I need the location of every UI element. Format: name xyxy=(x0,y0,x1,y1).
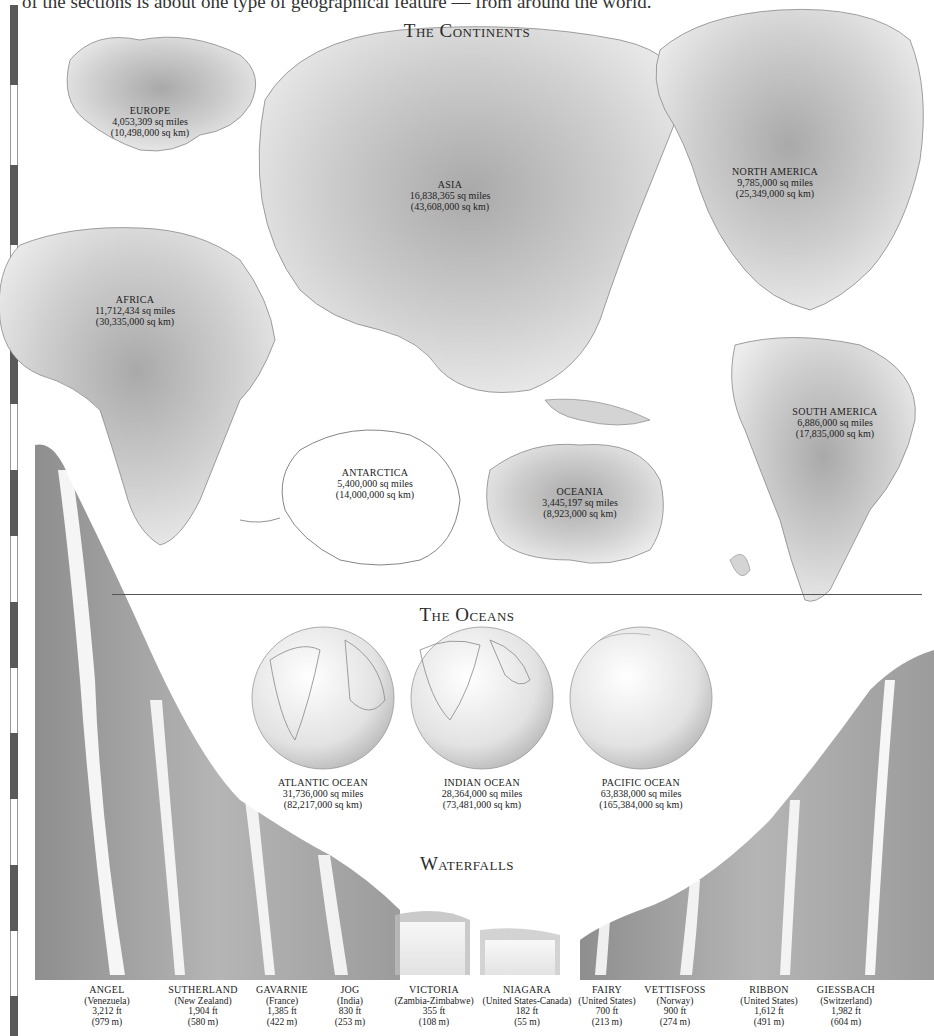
waterfall-height-ft: 830 ft xyxy=(335,1006,365,1017)
waterfall-height-ft: 700 ft xyxy=(578,1006,635,1017)
ocean-label-indian: INDIAN OCEAN 28,364,000 sq miles (73,481… xyxy=(402,777,562,810)
waterfall-height-m: (422 m) xyxy=(256,1017,308,1028)
waterfall-label-ribbon: RIBBON (United States) 1,612 ft (491 m) xyxy=(740,985,797,1027)
waterfall-height-m: (213 m) xyxy=(578,1017,635,1028)
continent-name: AFRICA xyxy=(80,294,190,305)
waterfall-country: (United States) xyxy=(578,996,635,1007)
waterfall-height-m: (979 m) xyxy=(84,1017,129,1028)
ocean-area-km: (82,217,000 sq km) xyxy=(243,799,403,810)
ocean-label-pacific: PACIFIC OCEAN 63,838,000 sq miles (165,3… xyxy=(561,777,721,810)
waterfall-height-m: (491 m) xyxy=(740,1017,797,1028)
waterfall-height-ft: 1,904 ft xyxy=(168,1006,238,1017)
world-illustration xyxy=(0,0,934,1036)
south-america-shape xyxy=(732,338,916,602)
waterfall-name: VICTORIA xyxy=(394,985,473,996)
ocean-label-atlantic: ATLANTIC OCEAN 31,736,000 sq miles (82,2… xyxy=(243,777,403,810)
waterfall-country: (United States-Canada) xyxy=(483,996,572,1007)
waterfall-name: NIAGARA xyxy=(483,985,572,996)
continent-area-km: (14,000,000 sq km) xyxy=(320,489,430,500)
waterfall-label-angel: ANGEL (Venezuela) 3,212 ft (979 m) xyxy=(84,985,129,1027)
atlantic-ocean-globe xyxy=(252,627,394,769)
waterfall-label-vettisfoss: VETTISFOSS (Norway) 900 ft (274 m) xyxy=(644,985,705,1027)
waterfall-label-victoria: VICTORIA (Zambia-Zimbabwe) 355 ft (108 m… xyxy=(394,985,473,1027)
waterfall-country: (New Zealand) xyxy=(168,996,238,1007)
waterfall-label-niagara: NIAGARA (United States-Canada) 182 ft (5… xyxy=(483,985,572,1027)
ocean-area-miles: 31,736,000 sq miles xyxy=(243,788,403,799)
waterfall-name: GAVARNIE xyxy=(256,985,308,996)
continent-name: OCEANIA xyxy=(530,486,630,497)
waterfall-label-sutherland: SUTHERLAND (New Zealand) 1,904 ft (580 m… xyxy=(168,985,238,1027)
waterfall-height-ft: 182 ft xyxy=(483,1006,572,1017)
waterfall-name: SUTHERLAND xyxy=(168,985,238,996)
continent-area-miles: 16,838,365 sq miles xyxy=(390,190,510,201)
waterfall-labels: ANGEL (Venezuela) 3,212 ft (979 m) SUTHE… xyxy=(0,985,934,1036)
waterfall-label-jog: JOG (India) 830 ft (253 m) xyxy=(335,985,365,1027)
waterfall-height-ft: 900 ft xyxy=(644,1006,705,1017)
waterfall-label-gavarnie: GAVARNIE (France) 1,385 ft (422 m) xyxy=(256,985,308,1027)
waterfall-height-ft: 1,385 ft xyxy=(256,1006,308,1017)
waterfall-label-fairy: FAIRY (United States) 700 ft (213 m) xyxy=(578,985,635,1027)
section-title-oceans: The Oceans xyxy=(0,604,934,626)
continent-name: NORTH AMERICA xyxy=(715,166,835,177)
continent-name: ASIA xyxy=(390,179,510,190)
waterfall-country: (Norway) xyxy=(644,996,705,1007)
continent-label-asia: ASIA 16,838,365 sq miles (43,608,000 sq … xyxy=(390,179,510,212)
ocean-name: PACIFIC OCEAN xyxy=(561,777,721,788)
continent-label-north-america: NORTH AMERICA 9,785,000 sq miles (25,349… xyxy=(715,166,835,199)
waterfall-height-ft: 1,982 ft xyxy=(817,1006,875,1017)
waterfall-country: (Zambia-Zimbabwe) xyxy=(394,996,473,1007)
waterfall-name: FAIRY xyxy=(578,985,635,996)
ocean-name: ATLANTIC OCEAN xyxy=(243,777,403,788)
continent-label-africa: AFRICA 11,712,434 sq miles (30,335,000 s… xyxy=(80,294,190,327)
ocean-area-miles: 63,838,000 sq miles xyxy=(561,788,721,799)
waterfall-country: (France) xyxy=(256,996,308,1007)
waterfall-name: VETTISFOSS xyxy=(644,985,705,996)
continent-area-miles: 9,785,000 sq miles xyxy=(715,177,835,188)
waterfall-height-ft: 1,612 ft xyxy=(740,1006,797,1017)
continent-label-oceania: OCEANIA 3,445,197 sq miles (8,923,000 sq… xyxy=(530,486,630,519)
continent-area-km: (17,835,000 sq km) xyxy=(770,428,900,439)
continent-area-km: (8,923,000 sq km) xyxy=(530,508,630,519)
waterfall-height-m: (55 m) xyxy=(483,1017,572,1028)
continent-area-miles: 3,445,197 sq miles xyxy=(530,497,630,508)
section-divider xyxy=(112,594,922,595)
waterfall-name: JOG xyxy=(335,985,365,996)
waterfall-name: GIESSBACH xyxy=(817,985,875,996)
continent-label-antarctica: ANTARCTICA 5,400,000 sq miles (14,000,00… xyxy=(320,467,430,500)
waterfall-name: ANGEL xyxy=(84,985,129,996)
section-title-continents: The Continents xyxy=(0,20,934,42)
waterfall-country: (Venezuela) xyxy=(84,996,129,1007)
section-title-waterfalls: Waterfalls xyxy=(0,853,934,875)
ocean-area-km: (165,384,000 sq km) xyxy=(561,799,721,810)
pacific-ocean-globe xyxy=(570,627,712,769)
continent-area-km: (30,335,000 sq km) xyxy=(80,316,190,327)
waterfall-name: RIBBON xyxy=(740,985,797,996)
continent-area-miles: 5,400,000 sq miles xyxy=(320,478,430,489)
continent-area-miles: 11,712,434 sq miles xyxy=(80,305,190,316)
ocean-area-km: (73,481,000 sq km) xyxy=(402,799,562,810)
continent-area-km: (25,349,000 sq km) xyxy=(715,188,835,199)
continent-name: ANTARCTICA xyxy=(320,467,430,478)
north-america-shape xyxy=(656,9,923,310)
waterfall-center xyxy=(395,911,560,975)
continent-label-south-america: SOUTH AMERICA 6,886,000 sq miles (17,835… xyxy=(770,406,900,439)
continent-area-miles: 4,053,309 sq miles xyxy=(100,116,200,127)
waterfall-height-ft: 3,212 ft xyxy=(84,1006,129,1017)
continent-name: SOUTH AMERICA xyxy=(770,406,900,417)
waterfall-height-m: (253 m) xyxy=(335,1017,365,1028)
waterfall-height-m: (604 m) xyxy=(817,1017,875,1028)
waterfall-country: (United States) xyxy=(740,996,797,1007)
continent-area-miles: 6,886,000 sq miles xyxy=(770,417,900,428)
waterfall-height-ft: 355 ft xyxy=(394,1006,473,1017)
waterfall-height-m: (108 m) xyxy=(394,1017,473,1028)
continent-name: EUROPE xyxy=(100,105,200,116)
waterfall-height-m: (580 m) xyxy=(168,1017,238,1028)
continent-area-km: (43,608,000 sq km) xyxy=(390,201,510,212)
continent-area-km: (10,498,000 sq km) xyxy=(100,127,200,138)
indian-ocean-globe xyxy=(411,627,553,769)
waterfall-country: (India) xyxy=(335,996,365,1007)
ocean-name: INDIAN OCEAN xyxy=(402,777,562,788)
ocean-area-miles: 28,364,000 sq miles xyxy=(402,788,562,799)
continent-label-europe: EUROPE 4,053,309 sq miles (10,498,000 sq… xyxy=(100,105,200,138)
waterfall-country: (Switzerland) xyxy=(817,996,875,1007)
